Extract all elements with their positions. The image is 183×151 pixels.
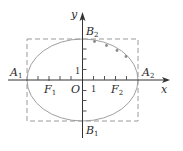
origin-label: O (71, 84, 80, 95)
y-unit-label: 1 (75, 66, 80, 76)
focus-f2-label: F2 (111, 84, 123, 97)
vertex-a1-label: A1 (10, 67, 22, 80)
focus-f1-marker (48, 79, 50, 81)
vertex-a2-label: A2 (142, 67, 154, 80)
ellipse-diagram: y x B2 B1 A1 A2 F1 F2 O 1 1 (0, 0, 183, 151)
y-axis-label: y (71, 9, 77, 20)
x-unit-label: 1 (91, 84, 96, 94)
vertex-b1-label: B1 (86, 125, 99, 138)
ellipse-sample-dots (93, 40, 127, 58)
x-axis-label: x (161, 84, 167, 95)
vertex-b2-label: B2 (86, 26, 99, 39)
focus-f1-label: F1 (44, 84, 56, 97)
focus-f2-marker (115, 79, 117, 81)
